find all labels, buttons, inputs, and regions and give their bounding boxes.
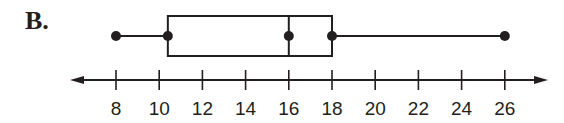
tick-label: 20 [365,98,386,119]
tick-label: 10 [149,98,170,119]
median-point [284,31,294,41]
min-point [111,31,121,41]
tick-label: 24 [451,98,473,119]
interquartile-box [168,16,332,56]
tick-label: 14 [235,98,257,119]
q1-point [163,31,173,41]
right-arrow-icon [534,76,548,84]
q3-point [327,31,337,41]
tick-label: 16 [278,98,299,119]
tick-label: 12 [192,98,213,119]
tick-label: 22 [408,98,429,119]
max-point [500,31,510,41]
tick-label: 18 [321,98,342,119]
number-line: 8101214161820222426 [70,70,548,119]
tick-label: 8 [111,98,122,119]
box-and-whiskers [111,16,510,56]
tick-label: 26 [494,98,515,119]
left-arrow-icon [70,76,84,84]
box-plot: 8101214161820222426 [0,0,564,123]
